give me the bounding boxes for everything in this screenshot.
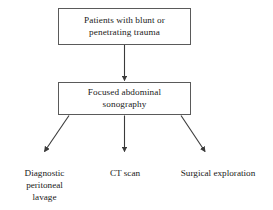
node-surgical-exploration: Surgical exploration [165, 156, 271, 180]
node-sonography-label: Focused abdominal sonography [84, 87, 165, 110]
node-patients-label: Patients with blunt or penetrating traum… [80, 15, 169, 38]
node-patients-with-trauma: Patients with blunt or penetrating traum… [58, 8, 191, 45]
edge-sonography-to-surgical [181, 116, 205, 152]
node-surgical-label: Surgical exploration [181, 168, 256, 178]
node-diagnostic-peritoneal-lavage: Diagnostic peritoneal lavage [2, 156, 87, 204]
node-ct-label: CT scan [110, 168, 140, 178]
node-focused-abdominal-sonography: Focused abdominal sonography [58, 82, 191, 115]
edge-sonography-to-dpl [45, 116, 70, 152]
node-dpl-label: Diagnostic peritoneal lavage [25, 168, 65, 202]
flowchart-diagram: Patients with blunt or penetrating traum… [0, 0, 273, 210]
node-ct-scan: CT scan [90, 156, 160, 180]
